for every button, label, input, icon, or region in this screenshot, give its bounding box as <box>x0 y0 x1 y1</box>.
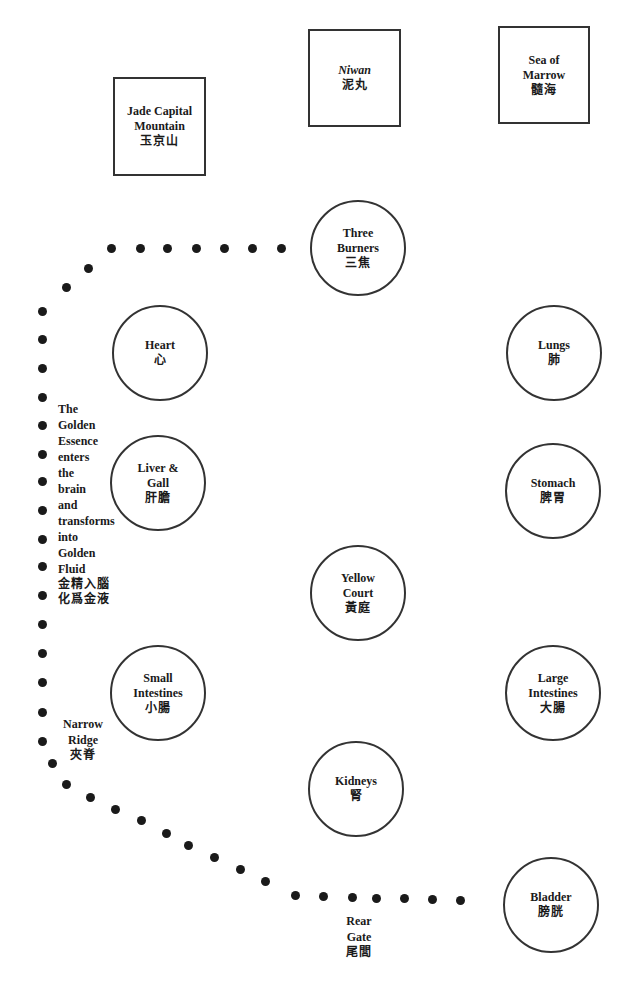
small-intestines-line1: Small <box>143 671 172 686</box>
path-dot <box>136 244 145 253</box>
heart-circle: Heart 心 <box>112 305 208 401</box>
kidneys-circle: Kidneys 腎 <box>308 741 404 837</box>
large-intestines-line2: Intestines <box>528 686 577 701</box>
rear-gate-line1: Rear <box>330 913 388 929</box>
path-dot <box>38 562 47 571</box>
path-dot <box>261 877 270 886</box>
small-intestines-zh: 小腸 <box>145 701 171 716</box>
liver-gall-line1: Liver & <box>138 461 179 476</box>
yellow-court-circle: Yellow Court 黃庭 <box>310 545 406 641</box>
kidneys-label: Kidneys <box>335 774 377 789</box>
path-dot <box>38 620 47 629</box>
sea-of-marrow-line2: Marrow <box>523 68 565 83</box>
path-dot <box>248 244 257 253</box>
path-dot <box>62 283 71 292</box>
yellow-court-line2: Court <box>343 586 374 601</box>
golden-essence-zh-line2: 化爲金液 <box>58 592 115 607</box>
path-dot <box>38 421 47 430</box>
small-intestines-circle: Small Intestines 小腸 <box>110 645 206 741</box>
path-dot <box>86 793 95 802</box>
path-dot <box>210 853 219 862</box>
path-dot <box>291 891 300 900</box>
niwan-box: Niwan 泥丸 <box>308 29 401 127</box>
large-intestines-circle: Large Intestines 大腸 <box>505 645 601 741</box>
large-intestines-zh: 大腸 <box>540 701 566 716</box>
niwan-label: Niwan <box>338 63 371 78</box>
small-intestines-line2: Intestines <box>133 686 182 701</box>
bladder-label: Bladder <box>530 890 571 905</box>
rear-gate-annotation: Rear Gate 尾閭 <box>330 913 388 960</box>
golden-essence-zh-line1: 金精入腦 <box>58 577 115 592</box>
three-burners-zh: 三焦 <box>345 256 371 271</box>
jade-capital-line1: Jade Capital <box>127 104 192 119</box>
path-dot <box>38 477 47 486</box>
path-dot <box>428 895 437 904</box>
lungs-circle: Lungs 肺 <box>506 305 602 401</box>
sea-of-marrow-box: Sea of Marrow 髓海 <box>498 26 590 124</box>
golden-essence-line: The <box>58 401 115 417</box>
golden-essence-line: Golden <box>58 545 115 561</box>
golden-essence-line: transforms <box>58 513 115 529</box>
narrow-ridge-zh: 夾脊 <box>56 748 110 763</box>
three-burners-circle: Three Burners 三焦 <box>310 200 406 296</box>
path-dot <box>220 244 229 253</box>
golden-essence-annotation: The Golden Essence enters the brain and … <box>58 401 115 607</box>
large-intestines-line1: Large <box>538 671 569 686</box>
path-dot <box>48 759 57 768</box>
path-dot <box>38 335 47 344</box>
path-dot <box>107 244 116 253</box>
stomach-zh: 脾胃 <box>540 491 566 506</box>
narrow-ridge-line1: Narrow <box>56 716 110 732</box>
path-dot <box>236 865 245 874</box>
three-burners-line2: Burners <box>337 241 379 256</box>
golden-essence-line: into <box>58 529 115 545</box>
stomach-label: Stomach <box>531 476 576 491</box>
heart-zh: 心 <box>154 353 167 368</box>
liver-gall-circle: Liver & Gall 肝膽 <box>110 435 206 531</box>
narrow-ridge-line2: Ridge <box>56 732 110 748</box>
niwan-zh: 泥丸 <box>342 78 368 93</box>
lungs-zh: 肺 <box>548 353 561 368</box>
bladder-circle: Bladder 膀胱 <box>503 857 599 953</box>
liver-gall-zh: 肝膽 <box>145 491 171 506</box>
jade-capital-mountain-box: Jade Capital Mountain 玉京山 <box>113 77 206 176</box>
golden-essence-line: and <box>58 497 115 513</box>
golden-essence-line: Golden <box>58 417 115 433</box>
golden-essence-line: Fluid <box>58 561 115 577</box>
path-dot <box>38 737 47 746</box>
path-dot <box>38 364 47 373</box>
golden-essence-line: enters <box>58 449 115 465</box>
path-dot <box>38 678 47 687</box>
path-dot <box>38 591 47 600</box>
jade-capital-line2: Mountain <box>134 119 185 134</box>
path-dot <box>84 264 93 273</box>
heart-label: Heart <box>145 338 175 353</box>
path-dot <box>38 535 47 544</box>
jade-capital-zh: 玉京山 <box>140 134 179 149</box>
narrow-ridge-annotation: Narrow Ridge 夾脊 <box>56 716 110 763</box>
path-dot <box>372 894 381 903</box>
golden-essence-line: brain <box>58 481 115 497</box>
path-dot <box>62 780 71 789</box>
path-dot <box>38 393 47 402</box>
sea-of-marrow-line1: Sea of <box>529 53 560 68</box>
golden-essence-line: the <box>58 465 115 481</box>
path-dot <box>192 244 201 253</box>
stomach-circle: Stomach 脾胃 <box>505 443 601 539</box>
path-dot <box>162 829 171 838</box>
path-dot <box>163 244 172 253</box>
kidneys-zh: 腎 <box>350 789 363 804</box>
path-dot <box>319 892 328 901</box>
three-burners-line1: Three <box>343 226 373 241</box>
path-dot <box>38 307 47 316</box>
rear-gate-line2: Gate <box>330 929 388 945</box>
sea-of-marrow-zh: 髓海 <box>531 83 557 98</box>
path-dot <box>111 805 120 814</box>
path-dot <box>137 816 146 825</box>
path-dot <box>38 649 47 658</box>
path-dot <box>456 896 465 905</box>
rear-gate-zh: 尾閭 <box>330 945 388 960</box>
path-dot <box>38 708 47 717</box>
path-dot <box>400 894 409 903</box>
path-dot <box>38 506 47 515</box>
